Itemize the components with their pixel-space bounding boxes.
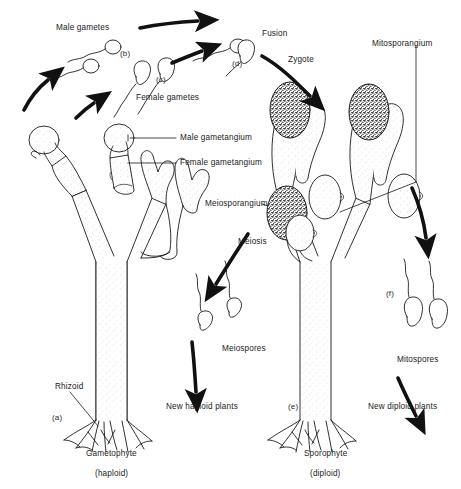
label-male-gametangium: Male gametangium — [180, 134, 252, 142]
label-female-gametes: Female gametes — [136, 94, 199, 102]
label-rhizoid: Rhizoid — [55, 383, 83, 391]
label-meiosis: Meiosis — [238, 238, 267, 246]
label-mitospores: Mitospores — [397, 356, 439, 364]
label-zygote: Zygote — [288, 56, 314, 64]
label-meiospores: Meiospores — [222, 345, 266, 353]
label-fusion: Fusion — [262, 30, 287, 38]
label-female-gametangium: Female gametangium — [180, 159, 262, 167]
label-meiosporangium: Meiosporangium — [205, 200, 268, 208]
label-male-gametes: Male gametes — [56, 24, 109, 32]
diagram-artwork — [0, 0, 461, 489]
label-new-diploid-plants: New diploid plants — [368, 403, 437, 411]
stage-marker-f: (f) — [386, 290, 394, 298]
stage-marker-a: (a) — [52, 414, 62, 422]
stage-marker-c: (c) — [156, 76, 166, 84]
label-sporophyte-ploidy: (diploid) — [310, 470, 340, 478]
label-gametophyte-ploidy: (haploid) — [95, 470, 128, 478]
stage-marker-e: (e) — [288, 403, 298, 411]
label-sporophyte: Sporophyte — [304, 450, 347, 458]
stage-marker-d: (d) — [232, 60, 242, 68]
label-mitosporangium: Mitosporangium — [372, 40, 432, 48]
label-new-haploid-plants: New haploid plants — [166, 403, 238, 411]
label-gametophyte: Gametophyte — [86, 450, 137, 458]
stage-marker-b: (b) — [120, 50, 130, 58]
life-cycle-diagram: Male gametes (b) Female gametes (c) (d) … — [0, 0, 461, 489]
